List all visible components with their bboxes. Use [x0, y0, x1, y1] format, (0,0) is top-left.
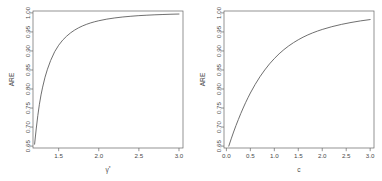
- y-tick-label: 0.75: [24, 101, 31, 114]
- figure-root: 0.650.700.750.800.850.900.951.001.52.02.…: [0, 0, 382, 181]
- x-axis-title: c: [297, 166, 301, 173]
- x-tick-label: 3.0: [175, 152, 184, 159]
- x-tick-label: 1.5: [54, 152, 63, 159]
- x-tick-label: 0.0: [222, 152, 231, 159]
- y-axis: 0.650.700.750.800.850.900.951.00: [24, 6, 33, 152]
- plot-svg-right: 0.650.700.750.800.850.900.951.000.00.51.…: [191, 0, 382, 181]
- y-tick-label: 0.75: [215, 101, 222, 114]
- y-axis-title: ARE: [199, 72, 206, 86]
- y-tick-label: 0.65: [24, 140, 31, 153]
- y-tick-label: 0.80: [24, 82, 31, 95]
- x-tick-label: 2.5: [135, 152, 144, 159]
- y-tick-label: 0.85: [24, 63, 31, 76]
- y-tick-label: 0.70: [215, 120, 222, 133]
- x-tick-label: 2.0: [94, 152, 103, 159]
- y-axis: 0.650.700.750.800.850.900.951.00: [215, 6, 224, 152]
- x-axis: 1.52.02.53.0: [54, 148, 183, 159]
- x-tick-label: 3.0: [366, 152, 375, 159]
- x-tick-label: 2.5: [342, 152, 351, 159]
- y-tick-label: 0.80: [215, 82, 222, 95]
- x-tick-label: 1.0: [270, 152, 279, 159]
- y-tick-label: 0.90: [24, 44, 31, 57]
- chart-panel-left: 0.650.700.750.800.850.900.951.001.52.02.…: [0, 0, 191, 181]
- x-tick-label: 1.5: [294, 152, 303, 159]
- data-series-line: [229, 20, 370, 147]
- y-tick-label: 0.95: [24, 25, 31, 38]
- y-tick-label: 0.85: [215, 63, 222, 76]
- data-series-line: [35, 14, 179, 144]
- x-axis-title: γ*: [105, 166, 110, 174]
- plot-frame: [224, 11, 374, 148]
- x-axis: 0.00.51.01.52.02.53.0: [222, 148, 375, 159]
- x-tick-label: 0.5: [246, 152, 255, 159]
- y-tick-label: 1.00: [24, 6, 31, 19]
- y-tick-label: 0.90: [215, 44, 222, 57]
- plot-frame: [33, 11, 183, 148]
- chart-panel-right: 0.650.700.750.800.850.900.951.000.00.51.…: [191, 0, 382, 181]
- y-tick-label: 0.70: [24, 120, 31, 133]
- plot-svg-left: 0.650.700.750.800.850.900.951.001.52.02.…: [0, 0, 191, 181]
- y-axis-title: ARE: [8, 72, 15, 86]
- y-tick-label: 0.95: [215, 25, 222, 38]
- y-tick-label: 1.00: [215, 6, 222, 19]
- x-tick-label: 2.0: [318, 152, 327, 159]
- y-tick-label: 0.65: [215, 140, 222, 153]
